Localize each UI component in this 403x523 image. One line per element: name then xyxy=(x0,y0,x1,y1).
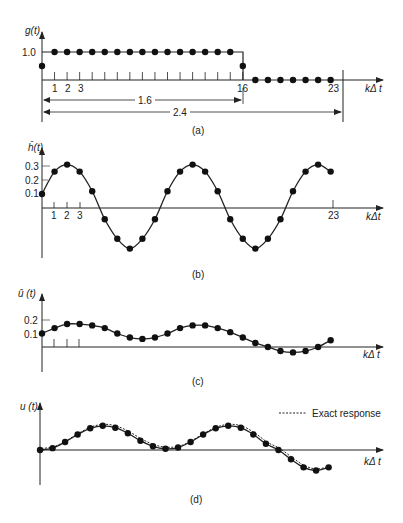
x-tick-label: 2 xyxy=(65,83,71,94)
data-point xyxy=(263,441,269,447)
data-point xyxy=(64,321,70,327)
data-point xyxy=(102,49,108,55)
data-point xyxy=(215,325,221,331)
chart-c: û (t) 0.2 0.1 kΔ t (c) xyxy=(18,288,383,387)
data-point xyxy=(177,168,183,174)
data-point xyxy=(152,334,158,340)
data-point xyxy=(51,325,57,331)
data-point xyxy=(114,49,120,55)
data-point xyxy=(302,168,308,174)
caption: (a) xyxy=(192,125,204,136)
x-axis-label: kΔ t xyxy=(364,456,382,467)
data-point xyxy=(252,340,258,346)
data-point xyxy=(227,216,233,222)
data-point xyxy=(215,188,221,194)
data-point xyxy=(127,49,133,55)
caption: (d) xyxy=(190,494,202,505)
data-point xyxy=(327,168,333,174)
data-points xyxy=(37,423,332,474)
data-point xyxy=(265,236,271,242)
y-tick-label: 1.0 xyxy=(22,47,36,58)
data-point xyxy=(125,430,131,436)
curve xyxy=(40,426,329,471)
data-point xyxy=(277,77,283,83)
data-point xyxy=(162,446,168,452)
data-point xyxy=(302,348,308,354)
dimension-label: 1.6 xyxy=(138,95,152,106)
data-point xyxy=(152,216,158,222)
curve xyxy=(42,165,331,249)
data-point xyxy=(139,49,145,55)
data-point xyxy=(114,330,120,336)
data-point xyxy=(175,444,181,450)
data-point xyxy=(315,77,321,83)
data-point xyxy=(150,443,156,449)
data-point xyxy=(74,431,80,437)
data-point xyxy=(102,216,108,222)
data-point xyxy=(164,188,170,194)
legend-label: Exact response xyxy=(312,408,381,419)
data-point xyxy=(137,438,143,444)
data-point xyxy=(89,322,95,328)
x-axis-label: kΔ t xyxy=(363,349,381,360)
data-point xyxy=(64,161,70,167)
data-point xyxy=(250,431,256,437)
y-tick-label: 0.1 xyxy=(24,329,38,340)
caption: (c) xyxy=(192,376,204,387)
data-point xyxy=(300,464,306,470)
data-point xyxy=(252,245,258,251)
data-point xyxy=(227,49,233,55)
data-point xyxy=(240,63,246,69)
data-point xyxy=(37,447,43,453)
chart-d: u (t) kΔ t Exact response (d) xyxy=(20,401,383,505)
data-point xyxy=(102,325,108,331)
data-point xyxy=(89,188,95,194)
data-point xyxy=(177,49,183,55)
data-point xyxy=(164,330,170,336)
data-point xyxy=(277,216,283,222)
data-point xyxy=(265,344,271,350)
data-point xyxy=(177,325,183,331)
x-tick-label: 1 xyxy=(52,83,58,94)
data-point xyxy=(189,161,195,167)
x-tick-label: 3 xyxy=(77,210,83,221)
data-point xyxy=(62,439,68,445)
data-point xyxy=(76,168,82,174)
data-point xyxy=(215,49,221,55)
data-point xyxy=(202,168,208,174)
data-point xyxy=(76,321,82,327)
data-point xyxy=(187,439,193,445)
data-point xyxy=(127,245,133,251)
data-point xyxy=(327,337,333,343)
data-point xyxy=(64,49,70,55)
data-point xyxy=(238,424,244,430)
data-point xyxy=(240,236,246,242)
x-tick-label: 2 xyxy=(64,210,70,221)
data-point xyxy=(277,348,283,354)
data-point xyxy=(189,322,195,328)
x-ticks xyxy=(55,72,243,80)
y-tick-label: 0.1 xyxy=(25,188,39,199)
data-point xyxy=(313,467,319,473)
data-point xyxy=(100,423,106,429)
data-point xyxy=(290,188,296,194)
x-tick-label: 3 xyxy=(78,83,84,94)
data-point xyxy=(112,424,118,430)
chart-a: g(t) 1.0 1 2 3 16 23 kΔ t 1.6 2.4 (a) xyxy=(22,25,383,136)
data-point xyxy=(39,191,45,197)
data-point xyxy=(213,425,219,431)
data-point xyxy=(189,49,195,55)
x-tick-label: 23 xyxy=(328,83,340,94)
y-axis-label: u (t) xyxy=(20,401,38,412)
y-axis-label: û (t) xyxy=(18,288,36,299)
data-point xyxy=(89,49,95,55)
data-point xyxy=(288,456,294,462)
x-axis-label: kΔ t xyxy=(365,83,383,94)
y-tick-label: 0.2 xyxy=(24,315,38,326)
y-tick-label: 0.3 xyxy=(25,161,39,172)
data-point xyxy=(202,322,208,328)
data-points xyxy=(39,49,334,83)
y-tick-label: 0.2 xyxy=(25,175,39,186)
curve xyxy=(42,324,331,353)
data-point xyxy=(275,447,281,453)
